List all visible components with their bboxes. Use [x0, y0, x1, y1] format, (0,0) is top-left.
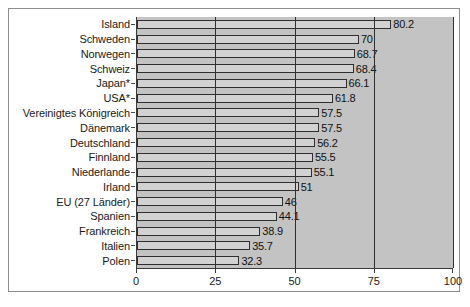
bar[interactable]: [137, 153, 313, 162]
bar-value-label: 38.9: [262, 225, 283, 237]
category-tick: [131, 245, 135, 246]
category-tick: [131, 216, 135, 217]
bar[interactable]: [137, 108, 319, 117]
category-label: EU (27 Länder): [9, 194, 135, 209]
bar-row[interactable]: 68.4: [137, 61, 454, 76]
x-tick-label: 25: [209, 275, 221, 287]
bar-row[interactable]: 70: [137, 32, 454, 47]
bar[interactable]: [137, 49, 355, 58]
bar-value-label: 35.7: [252, 240, 273, 252]
category-tick: [131, 83, 135, 84]
bar[interactable]: [137, 168, 312, 177]
bar-value-label: 56.2: [317, 137, 338, 149]
bar[interactable]: [137, 182, 299, 191]
category-tick: [131, 172, 135, 173]
category-label: Spanien: [9, 209, 135, 224]
bar-row[interactable]: 35.7: [137, 238, 454, 253]
gridline-50: [295, 17, 296, 268]
gridline-100: [453, 17, 454, 268]
x-tick: [136, 268, 137, 273]
category-label: Japan*: [9, 76, 135, 91]
gridline-75: [374, 17, 375, 268]
bar-value-label: 66.1: [349, 77, 370, 89]
bar-value-label: 51: [301, 181, 313, 193]
bar[interactable]: [137, 227, 260, 236]
bar-value-label: 55.1: [314, 166, 335, 178]
plot-area: 80.27068.768.466.161.857.557.556.255.555…: [136, 17, 454, 268]
category-tick: [131, 98, 135, 99]
bar-value-label: 32.3: [241, 255, 262, 267]
bar[interactable]: [137, 20, 391, 29]
bar-row[interactable]: 55.5: [137, 150, 454, 165]
bar-row[interactable]: 80.2: [137, 17, 454, 32]
category-tick: [131, 157, 135, 158]
bar-row[interactable]: 44.1: [137, 209, 454, 224]
x-tick: [374, 268, 375, 273]
category-axis: IslandSchwedenNorwegenSchweizJapan*USA*V…: [9, 17, 135, 268]
bar[interactable]: [137, 138, 315, 147]
category-tick: [131, 68, 135, 69]
category-tick: [131, 186, 135, 187]
bar[interactable]: [137, 197, 283, 206]
bar-value-label: 55.5: [315, 151, 336, 163]
category-label: Deutschland: [9, 135, 135, 150]
bar[interactable]: [137, 79, 347, 88]
x-tick: [295, 268, 296, 273]
gridline-25: [215, 17, 216, 268]
category-label: Finnland: [9, 150, 135, 165]
bar-row[interactable]: 46: [137, 194, 454, 209]
category-label: Niederlande: [9, 165, 135, 180]
chart-frame: IslandSchwedenNorwegenSchweizJapan*USA*V…: [8, 8, 460, 292]
bar[interactable]: [137, 123, 319, 132]
category-tick: [131, 53, 135, 54]
category-label: USA*: [9, 91, 135, 106]
category-tick: [131, 127, 135, 128]
bar-row[interactable]: 57.5: [137, 106, 454, 121]
category-label: Frankreich: [9, 224, 135, 239]
bar-row[interactable]: 56.2: [137, 135, 454, 150]
bar-value-label: 44.1: [279, 210, 300, 222]
x-tick: [452, 268, 453, 273]
x-tick-label: 50: [288, 275, 300, 287]
bar[interactable]: [137, 94, 333, 103]
bar[interactable]: [137, 212, 277, 221]
bar[interactable]: [137, 241, 250, 250]
category-label: Dänemark: [9, 120, 135, 135]
x-tick-label: 100: [444, 275, 462, 287]
bar-value-label: 57.5: [321, 107, 342, 119]
bar-row[interactable]: 61.8: [137, 91, 454, 106]
bar-row[interactable]: 51: [137, 179, 454, 194]
bar-value-label: 57.5: [321, 122, 342, 134]
bar[interactable]: [137, 35, 359, 44]
category-label: Island: [9, 17, 135, 32]
x-tick-label: 75: [368, 275, 380, 287]
bar-row[interactable]: 32.3: [137, 253, 454, 268]
category-tick: [131, 39, 135, 40]
x-tick: [215, 268, 216, 273]
bar-row[interactable]: 55.1: [137, 165, 454, 180]
category-label: Italien: [9, 238, 135, 253]
category-label: Polen: [9, 253, 135, 268]
bar-value-label: 61.8: [335, 92, 356, 104]
category-label: Irland: [9, 179, 135, 194]
x-tick-label: 0: [133, 275, 139, 287]
category-label: Vereinigtes Königreich: [9, 106, 135, 121]
category-tick: [131, 142, 135, 143]
category-label: Schweden: [9, 32, 135, 47]
bar-row[interactable]: 66.1: [137, 76, 454, 91]
bar-row[interactable]: 38.9: [137, 224, 454, 239]
bar[interactable]: [137, 256, 239, 265]
bar[interactable]: [137, 64, 354, 73]
bar-row[interactable]: 57.5: [137, 120, 454, 135]
category-label: Norwegen: [9, 47, 135, 62]
value-axis: 0255075100: [136, 268, 453, 292]
category-tick: [131, 201, 135, 202]
category-tick: [131, 231, 135, 232]
category-label: Schweiz: [9, 61, 135, 76]
category-tick: [131, 112, 135, 113]
category-tick: [131, 24, 135, 25]
bar-row[interactable]: 68.7: [137, 47, 454, 62]
bar-series: 80.27068.768.466.161.857.557.556.255.555…: [137, 17, 454, 268]
category-tick: [131, 260, 135, 261]
bar-value-label: 70: [361, 33, 373, 45]
